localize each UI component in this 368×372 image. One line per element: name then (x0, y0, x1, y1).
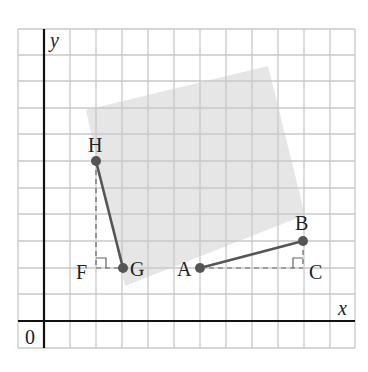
y-axis-label: y (48, 29, 59, 52)
right-angle-mark-C (293, 258, 303, 268)
label-G: G (130, 258, 144, 280)
label-C: C (309, 261, 322, 283)
point-B (298, 236, 308, 246)
label-F: F (76, 261, 87, 283)
label-B: B (295, 212, 308, 234)
point-G (118, 263, 128, 273)
point-H (91, 156, 101, 166)
label-A: A (177, 258, 192, 280)
point-A (195, 263, 205, 273)
right-angle-mark-F (96, 258, 106, 268)
grid (18, 29, 355, 348)
origin-label: 0 (25, 326, 35, 348)
label-H: H (88, 134, 102, 156)
coordinate-diagram: y x 0 H G A B F C (0, 0, 368, 372)
x-axis-label: x (337, 297, 347, 319)
